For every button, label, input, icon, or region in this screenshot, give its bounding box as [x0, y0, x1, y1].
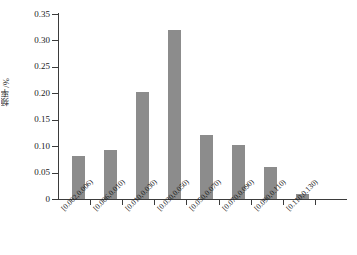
bars-layer	[58, 14, 347, 199]
x-axis-tick	[122, 200, 123, 205]
x-axis-tick	[283, 200, 284, 205]
bar	[168, 30, 181, 199]
x-axis-tick	[90, 200, 91, 205]
x-axis-tick	[315, 200, 316, 205]
y-axis-tick-label: 0.10	[4, 142, 50, 151]
bar-chart-figure: 频率/% 00.050.100.150.200.250.300.35 [0.00…	[0, 0, 357, 255]
x-axis-tick	[186, 200, 187, 205]
x-axis-tick	[251, 200, 252, 205]
y-axis-tick-label: 0	[4, 195, 50, 204]
y-axis-tick-label: 0.15	[4, 115, 50, 124]
x-axis-tick	[219, 200, 220, 205]
y-axis-tick	[52, 199, 58, 200]
y-axis-tick-label: 0.20	[4, 89, 50, 98]
y-axis-tick-label: 0.25	[4, 62, 50, 71]
y-axis-tick-label: 0.35	[4, 10, 50, 19]
y-axis-tick-label: 0.30	[4, 36, 50, 45]
y-axis-tick-label: 0.05	[4, 168, 50, 177]
x-axis-tick	[154, 200, 155, 205]
